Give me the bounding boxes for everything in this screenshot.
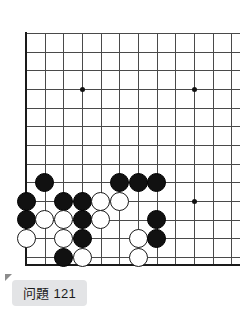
go-board (0, 0, 240, 272)
problem-label: 问題 121 (12, 280, 87, 306)
white-stone (91, 192, 110, 211)
caption-marker-icon (5, 274, 12, 281)
black-stone (129, 173, 148, 192)
white-stone (110, 192, 129, 211)
grid-line-vertical (213, 33, 214, 264)
black-stone (147, 173, 166, 192)
grid-line-horizontal (26, 33, 240, 34)
black-stone (147, 229, 166, 248)
caption-bar: 问題 121 (0, 272, 240, 312)
white-stone (91, 210, 110, 229)
black-stone (73, 210, 92, 229)
white-stone (129, 248, 148, 267)
grid-line-vertical (45, 33, 46, 264)
black-stone (110, 173, 129, 192)
white-stone (54, 229, 73, 248)
grid-line-vertical (119, 33, 120, 264)
grid-line-vertical (231, 33, 232, 264)
grid-line-horizontal (26, 126, 240, 127)
white-stone (129, 229, 148, 248)
white-stone (73, 248, 92, 267)
star-point (192, 199, 197, 204)
black-stone (73, 229, 92, 248)
black-stone (35, 173, 54, 192)
black-stone (54, 192, 73, 211)
star-point (192, 87, 197, 92)
grid-line-vertical (194, 33, 195, 264)
black-stone (147, 210, 166, 229)
white-stone (35, 210, 54, 229)
grid-line-horizontal (26, 70, 240, 71)
black-stone (17, 210, 36, 229)
white-stone (17, 229, 36, 248)
star-point (80, 87, 85, 92)
black-stone (54, 248, 73, 267)
white-stone (54, 210, 73, 229)
black-stone (73, 192, 92, 211)
grid-line-vertical (101, 33, 102, 264)
grid-line-horizontal (26, 52, 240, 53)
grid-line-horizontal (26, 164, 240, 165)
black-stone (17, 192, 36, 211)
grid-line-horizontal (26, 89, 240, 90)
grid-line-horizontal (26, 145, 240, 146)
grid-line-vertical (175, 33, 176, 264)
grid-line-horizontal (26, 108, 240, 109)
